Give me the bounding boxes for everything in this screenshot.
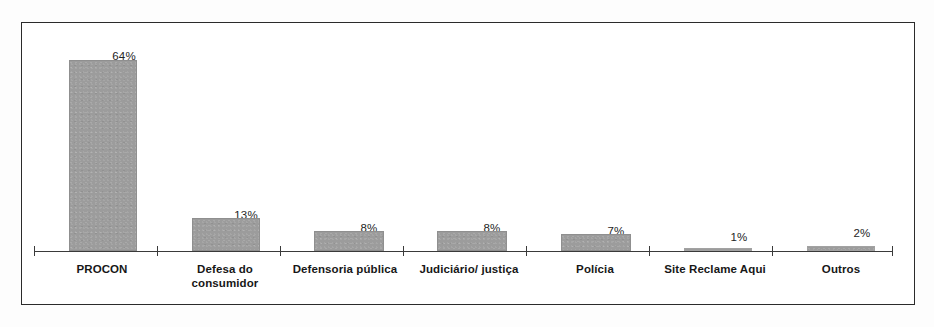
chart-frame: 64% 13% 8% 8% 7% 1% 2% xyxy=(21,22,915,305)
category-axis-line xyxy=(34,251,892,252)
bar-judiciario-justica[interactable] xyxy=(437,231,507,251)
bar-procon[interactable] xyxy=(69,60,137,251)
category-label-procon: PROCON xyxy=(41,262,163,276)
category-label-defesa-line2: consumidor xyxy=(164,276,286,290)
category-label-site-reclame-line1: Site Reclame Aqui xyxy=(664,263,766,275)
category-label-policia-line1: Polícia xyxy=(576,263,614,275)
axis-tick-5 xyxy=(649,246,650,256)
value-label-site-reclame-aqui: 1% xyxy=(687,231,791,243)
axis-tick-0 xyxy=(34,246,35,256)
axis-tick-3 xyxy=(403,246,404,256)
category-label-outros: Outros xyxy=(780,262,902,276)
category-label-procon-line1: PROCON xyxy=(76,263,127,275)
axis-tick-2 xyxy=(280,246,281,256)
category-label-judiciario-justica: Judiciário/ justiça xyxy=(406,262,532,276)
category-label-outros-line1: Outros xyxy=(822,263,860,275)
plot-area: 64% 13% 8% 8% 7% 1% 2% xyxy=(22,23,916,306)
category-label-defesa-do-consumidor: Defesa do consumidor xyxy=(164,262,286,290)
category-label-site-reclame-aqui: Site Reclame Aqui xyxy=(652,262,778,276)
bar-defensoria-publica[interactable] xyxy=(314,231,384,251)
bar-policia[interactable] xyxy=(561,234,631,251)
value-label-outros: 2% xyxy=(810,227,914,239)
category-label-defesa-line1: Defesa do xyxy=(197,263,253,275)
category-label-defensoria-publica: Defensoria pública xyxy=(282,262,408,276)
axis-tick-4 xyxy=(526,246,527,256)
axis-tick-7 xyxy=(892,246,893,256)
category-label-defensoria-line1: Defensoria pública xyxy=(293,263,398,275)
category-label-judiciario-line1: Judiciário/ justiça xyxy=(419,263,518,275)
scanned-page: 64% 13% 8% 8% 7% 1% 2% xyxy=(0,0,934,327)
category-label-policia: Polícia xyxy=(534,262,656,276)
axis-tick-1 xyxy=(157,246,158,256)
axis-tick-6 xyxy=(772,246,773,256)
bar-defesa-do-consumidor[interactable] xyxy=(192,218,260,251)
